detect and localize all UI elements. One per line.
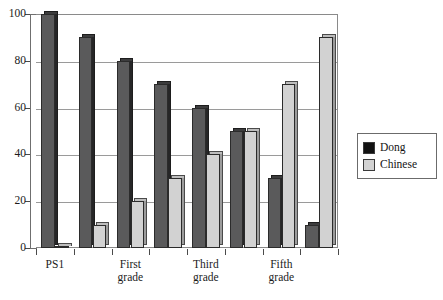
x-axis-label: PS1 bbox=[25, 258, 85, 271]
bar-dong-5 bbox=[230, 131, 244, 248]
x-axis-tick bbox=[263, 249, 264, 255]
bar-dong-4 bbox=[192, 108, 206, 248]
dark-swatch-icon bbox=[363, 142, 375, 154]
bar-side bbox=[257, 128, 260, 245]
bar-dong-3 bbox=[154, 84, 168, 248]
bar-face bbox=[41, 14, 55, 248]
bar-side bbox=[144, 198, 147, 245]
bar-face bbox=[244, 131, 258, 248]
bar-chart: 020406080100 PS1FirstgradeThirdgradeFift… bbox=[0, 0, 443, 300]
bar-side bbox=[295, 81, 298, 245]
y-axis-label: 0 bbox=[0, 242, 26, 254]
bar-dong-7 bbox=[305, 225, 319, 248]
bar-chinese-6 bbox=[282, 84, 296, 248]
legend: Dong Chinese bbox=[357, 133, 437, 179]
x-axis-label: Firstgrade bbox=[100, 258, 160, 284]
x-axis-tick bbox=[36, 249, 37, 255]
bar-face bbox=[282, 84, 296, 248]
bar-dong-6 bbox=[268, 178, 282, 248]
bar-face bbox=[206, 154, 220, 248]
bar-side bbox=[333, 34, 336, 245]
bar-side bbox=[55, 11, 58, 245]
bar-chinese-4 bbox=[206, 154, 220, 248]
bar-face bbox=[268, 178, 282, 248]
bar-face bbox=[117, 61, 131, 248]
legend-label-dong: Dong bbox=[380, 142, 406, 154]
bar-face bbox=[168, 178, 182, 248]
bar-side bbox=[182, 175, 185, 245]
bar-chinese-7 bbox=[319, 37, 333, 248]
x-axis-tick bbox=[112, 249, 113, 255]
x-axis-label-line: Fifth bbox=[251, 258, 311, 271]
bar-face bbox=[131, 201, 145, 248]
x-axis-label: Fifthgrade bbox=[251, 258, 311, 284]
bar-series-layer bbox=[36, 14, 338, 248]
y-axis-label: 40 bbox=[0, 148, 26, 160]
bar-side bbox=[106, 222, 109, 245]
legend-item-chinese: Chinese bbox=[363, 156, 432, 173]
bar-side bbox=[220, 151, 223, 245]
bar-chinese-5 bbox=[244, 131, 258, 248]
legend-item-dong: Dong bbox=[363, 139, 432, 156]
bar-face bbox=[93, 225, 107, 248]
bar-side bbox=[92, 34, 95, 245]
bar-face bbox=[79, 37, 93, 248]
bar-chinese-3 bbox=[168, 178, 182, 248]
x-axis-label-line: Third bbox=[176, 258, 236, 271]
bar-face bbox=[305, 225, 319, 248]
bar-face bbox=[55, 246, 69, 248]
bar-face bbox=[230, 131, 244, 248]
bar-chinese-2 bbox=[131, 201, 145, 248]
light-swatch-icon bbox=[363, 159, 375, 171]
x-axis-label-line: First bbox=[100, 258, 160, 271]
bar-chinese-1 bbox=[93, 225, 107, 248]
bar-dong-0 bbox=[41, 14, 55, 248]
bar-dong-2 bbox=[117, 61, 131, 248]
x-axis-label-line: grade bbox=[100, 271, 160, 284]
y-axis-label: 100 bbox=[0, 8, 26, 20]
legend-label-chinese: Chinese bbox=[380, 159, 417, 171]
x-axis-tick bbox=[225, 249, 226, 255]
y-axis-label: 20 bbox=[0, 195, 26, 207]
bar-face bbox=[319, 37, 333, 248]
x-axis-tick bbox=[187, 249, 188, 255]
x-axis-tick bbox=[74, 249, 75, 255]
y-axis-label: 60 bbox=[0, 102, 26, 114]
x-axis-label-line: grade bbox=[176, 271, 236, 284]
bar-chinese-0 bbox=[55, 246, 69, 248]
bar-dong-1 bbox=[79, 37, 93, 248]
x-axis-tick bbox=[149, 249, 150, 255]
bar-face bbox=[192, 108, 206, 248]
x-axis-label: Thirdgrade bbox=[176, 258, 236, 284]
y-axis-label: 80 bbox=[0, 55, 26, 67]
bar-face bbox=[154, 84, 168, 248]
x-axis-label-line: grade bbox=[251, 271, 311, 284]
x-axis-label-line: PS1 bbox=[25, 258, 85, 271]
x-axis-tick bbox=[300, 249, 301, 255]
x-axis-tick bbox=[338, 249, 339, 255]
